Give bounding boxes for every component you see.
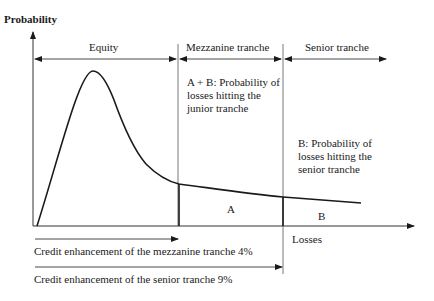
senior-annotation-line-3: senior tranche <box>298 162 360 176</box>
junior-annotation-line-3: junior tranche <box>187 101 248 115</box>
x-axis-label: Losses <box>292 232 322 246</box>
area-b-label: B <box>318 209 325 223</box>
junior-annotation-line-1: A + B: Probability of <box>187 75 280 89</box>
senior-annotation-line-1: B: Probability of <box>298 136 372 150</box>
y-axis-label: Probability <box>4 12 57 26</box>
tranche-label-equity: Equity <box>89 40 118 54</box>
tranche-label-mezzanine: Mezzanine tranche <box>186 40 269 54</box>
area-a-label: A <box>227 202 235 216</box>
mezzanine-enhancement-label: Credit enhancement of the mezzanine tran… <box>34 244 253 258</box>
senior-annotation-line-2: losses hitting the <box>298 149 372 163</box>
tranche-label-senior: Senior tranche <box>305 40 369 54</box>
senior-enhancement-label: Credit enhancement of the senior tranche… <box>34 272 233 286</box>
junior-annotation-line-2: losses hitting the <box>187 88 261 102</box>
